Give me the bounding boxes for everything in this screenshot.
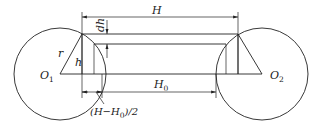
diagram-canvas: H dh H0 (H−H0)/2 r h O1 O2 <box>0 0 318 130</box>
label-offset: (H−H0)/2 <box>90 106 138 120</box>
right-radius-triangle <box>238 34 262 74</box>
label-O1: O1 <box>40 69 54 84</box>
offset-leader <box>96 92 104 104</box>
label-h: h <box>75 56 82 69</box>
label-r: r <box>58 47 64 60</box>
label-H0: H0 <box>153 78 169 93</box>
label-dh: dh <box>94 18 107 32</box>
label-O2: O2 <box>270 69 284 84</box>
label-H: H <box>151 4 162 17</box>
